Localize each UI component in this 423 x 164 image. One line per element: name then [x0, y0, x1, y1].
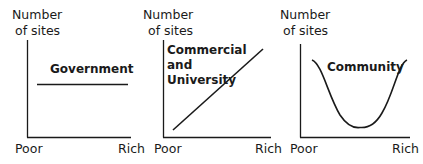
x-axis-left-label: Poor — [290, 141, 318, 156]
x-axis-left-label: Poor — [154, 141, 182, 156]
y-axis-label: Number — [280, 7, 331, 22]
panel-community: Number of sites Community Poor Rich — [280, 7, 419, 156]
x-axis-left-label: Poor — [15, 141, 43, 156]
series-label: Commercial — [167, 43, 247, 57]
y-axis-label: Number — [143, 7, 194, 22]
y-axis-label: Number — [12, 7, 63, 22]
panel-commercial-university: Number of sites Commercial and Universit… — [143, 7, 282, 156]
series-label: University — [167, 73, 236, 87]
x-axis-right-label: Rich — [255, 141, 282, 156]
x-axis-right-label: Rich — [118, 141, 145, 156]
y-axis-label: of sites — [283, 23, 328, 38]
figure: Number of sites Government Poor Rich Num… — [0, 0, 423, 164]
x-axis-right-label: Rich — [392, 141, 419, 156]
panel-government: Number of sites Government Poor Rich — [12, 7, 145, 156]
series-label: Government — [50, 62, 134, 76]
y-axis-label: of sites — [148, 23, 193, 38]
series-label: Community — [327, 60, 404, 74]
y-axis-label: of sites — [15, 23, 60, 38]
series-label: and — [167, 58, 192, 72]
